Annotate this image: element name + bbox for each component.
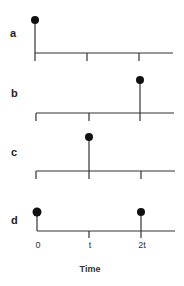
panel-d-impulse-dot-2t bbox=[137, 208, 145, 216]
impulse-timing-diagram: a b c d 0 t 2t Time bbox=[0, 0, 184, 286]
panel-b bbox=[36, 76, 174, 121]
tick-label-2t: 2t bbox=[138, 241, 146, 250]
panel-c-impulse-dot bbox=[85, 133, 93, 141]
panel-b-impulse-dot bbox=[136, 76, 144, 84]
x-axis-title: Time bbox=[80, 265, 101, 274]
panel-b-label: b bbox=[11, 88, 18, 99]
panel-d-impulse-dot-0 bbox=[33, 208, 42, 217]
panel-a-label: a bbox=[10, 28, 16, 39]
diagram-canvas bbox=[0, 0, 184, 286]
tick-label-t: t bbox=[89, 241, 92, 250]
tick-label-0: 0 bbox=[35, 241, 40, 250]
panel-d bbox=[33, 208, 176, 239]
panel-c-label: c bbox=[11, 147, 17, 158]
panel-a-impulse-dot bbox=[31, 16, 39, 24]
panel-c bbox=[36, 133, 175, 179]
panel-d-label: d bbox=[11, 215, 18, 226]
panel-a bbox=[31, 16, 173, 61]
